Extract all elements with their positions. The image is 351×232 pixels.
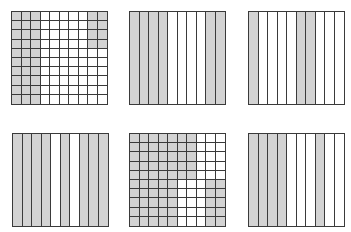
grid-cell [88, 21, 98, 30]
strip-column [70, 134, 80, 226]
grid-cell [130, 198, 140, 207]
strip-column [325, 134, 335, 226]
strip-column [23, 134, 33, 226]
grid-cell [206, 189, 216, 198]
strip-column [249, 134, 259, 226]
grid-cell [79, 30, 89, 39]
strip-column [278, 134, 288, 226]
strip-column [168, 12, 178, 104]
grid-cell [69, 58, 79, 67]
grid-cell [98, 49, 108, 58]
grid-cell [69, 49, 79, 58]
grid-cell [60, 76, 70, 85]
grid-cell [130, 180, 140, 189]
grid-cell [50, 30, 60, 39]
strip-column [259, 134, 269, 226]
grid-cell [41, 76, 51, 85]
grid-cell [130, 189, 140, 198]
strip-column [206, 12, 216, 104]
grid-cell [149, 171, 159, 180]
grid-cell [88, 12, 98, 21]
grid-cell [31, 30, 41, 39]
grid-cell [140, 208, 150, 217]
grid-cell [88, 40, 98, 49]
grid-cell [140, 152, 150, 161]
grid-cell [31, 58, 41, 67]
grid-cell [98, 58, 108, 67]
grid-cell [197, 171, 207, 180]
grid-cell [168, 134, 178, 143]
grid-cell [206, 198, 216, 207]
strip-column [297, 134, 307, 226]
grid-cell [187, 143, 197, 152]
grid-cell [140, 189, 150, 198]
grid-cell [187, 189, 197, 198]
grid-cell [168, 143, 178, 152]
grid-cell [206, 162, 216, 171]
grid-cell [60, 40, 70, 49]
grid-cell [216, 189, 226, 198]
strip-column [140, 12, 150, 104]
grid-cell [12, 12, 22, 21]
strip-column [335, 134, 345, 226]
grid-cell [216, 198, 226, 207]
grid-cell [130, 217, 140, 226]
grid-cell [187, 180, 197, 189]
grid-cell [216, 143, 226, 152]
grid-cell [12, 30, 22, 39]
grid-cell [197, 208, 207, 217]
grid-cell [216, 217, 226, 226]
grid-cell [130, 152, 140, 161]
strip-column [178, 12, 188, 104]
strip-column [99, 134, 109, 226]
strip-column [197, 12, 207, 104]
grid-cell [12, 67, 22, 76]
grid-cell [197, 180, 207, 189]
grid-cell [69, 40, 79, 49]
strip-column [268, 12, 278, 104]
grid-cell [178, 189, 188, 198]
grid-cell [12, 40, 22, 49]
grid-cell [50, 12, 60, 21]
grid-cell [31, 86, 41, 95]
grid-cell [149, 162, 159, 171]
grid-cell [12, 95, 22, 104]
grid-cell [149, 152, 159, 161]
strip-column [259, 12, 269, 104]
grid-cell [159, 217, 169, 226]
tenths-strip-grid-3 [248, 11, 345, 105]
grid-cell [178, 198, 188, 207]
grid-cell [79, 67, 89, 76]
hundred-grid-1 [11, 11, 108, 105]
grid-cell [206, 134, 216, 143]
grid-cell [69, 21, 79, 30]
grid-cell [149, 180, 159, 189]
grid-cell [22, 67, 32, 76]
grid-cell [41, 40, 51, 49]
grid-cell [69, 76, 79, 85]
grid-cell [140, 143, 150, 152]
strip-column [89, 134, 99, 226]
grid-cell [216, 152, 226, 161]
strip-column [80, 134, 90, 226]
grid-cell [178, 134, 188, 143]
strip-column [306, 12, 316, 104]
grid-cell [130, 171, 140, 180]
grid-cell [22, 12, 32, 21]
tenths-strip-grid-4 [12, 133, 109, 227]
grid-cell [149, 134, 159, 143]
grid-cell [88, 76, 98, 85]
grid-cell [69, 95, 79, 104]
grid-cell [79, 12, 89, 21]
grid-cell [168, 189, 178, 198]
grid-cell [168, 208, 178, 217]
grid-cell [31, 21, 41, 30]
grid-cell [50, 76, 60, 85]
strip-column [268, 134, 278, 226]
grid-cell [12, 76, 22, 85]
grid-cell [140, 217, 150, 226]
strip-column [42, 134, 52, 226]
grid-cell [197, 152, 207, 161]
grid-cell [50, 67, 60, 76]
grid-cell [187, 217, 197, 226]
